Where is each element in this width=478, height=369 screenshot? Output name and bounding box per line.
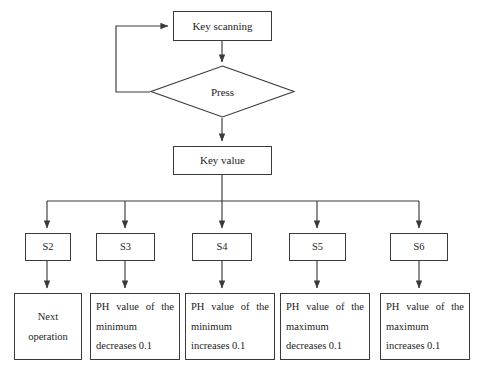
node-press-decision: Press — [150, 65, 295, 118]
node-state-s4: S4 — [192, 233, 252, 261]
node-action-max-increase-label: PH value of the maximum increases 0.1 — [386, 297, 464, 355]
node-state-s2: S2 — [25, 233, 71, 261]
node-action-min-increase-label: PH value of the minimum increases 0.1 — [191, 297, 269, 355]
node-key-value-label: Key value — [174, 154, 271, 167]
node-key-scanning: Key scanning — [173, 11, 272, 41]
node-action-next-operation-label: Next operation — [20, 307, 76, 346]
node-action-max-decrease: PH value of the maximum decreases 0.1 — [280, 293, 370, 360]
node-action-min-decrease-label: PH value of the minimum decreases 0.1 — [96, 297, 174, 355]
node-action-max-increase: PH value of the maximum increases 0.1 — [380, 293, 470, 360]
node-key-scanning-label: Key scanning — [174, 20, 271, 33]
node-state-s6: S6 — [390, 233, 448, 261]
node-action-next-operation: Next operation — [14, 293, 82, 360]
node-state-s2-label: S2 — [26, 241, 70, 253]
node-state-s4-label: S4 — [193, 241, 251, 253]
node-state-s5-label: S5 — [290, 241, 345, 253]
node-action-max-decrease-label: PH value of the maximum decreases 0.1 — [286, 297, 364, 355]
node-key-value: Key value — [173, 146, 272, 175]
flowchart-canvas: Key scanning Press Key value S2 S3 S4 S5… — [0, 0, 478, 369]
node-state-s3-label: S3 — [97, 241, 154, 253]
node-action-min-decrease: PH value of the minimum decreases 0.1 — [90, 293, 180, 360]
node-state-s3: S3 — [96, 233, 155, 261]
node-press-label: Press — [211, 86, 234, 98]
node-state-s5: S5 — [289, 233, 346, 261]
node-state-s6-label: S6 — [391, 241, 447, 253]
node-action-min-increase: PH value of the minimum increases 0.1 — [185, 293, 275, 360]
node-press-label-wrap: Press — [150, 65, 295, 118]
